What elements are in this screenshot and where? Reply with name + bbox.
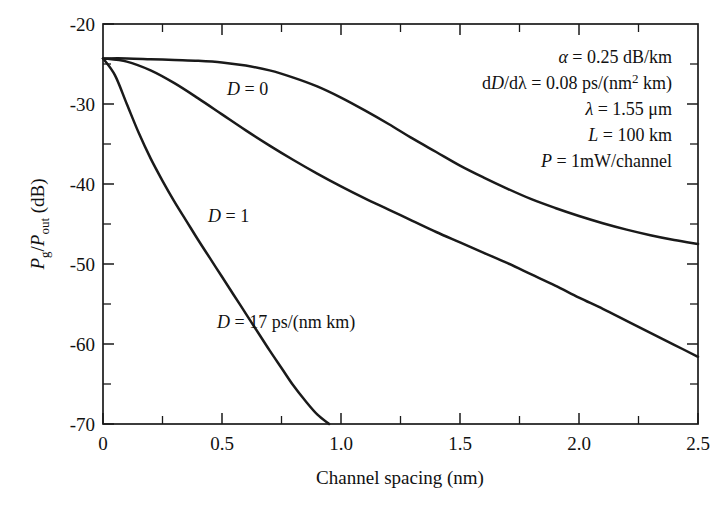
y-tick-label: -20	[70, 14, 95, 35]
annotation-slope-d-prefix: d	[482, 73, 491, 93]
annotation-lambda-symbol: λ	[584, 99, 593, 119]
y-axis-title-p2: P	[27, 234, 48, 247]
annotation-slope-value-post: km)	[639, 73, 673, 94]
annotation-lambda-value: 1.55 μm	[612, 99, 672, 119]
annotation-power-symbol: P	[540, 151, 552, 171]
annotation-alpha: α = 0.25 dB/km	[558, 47, 672, 67]
annotation-slope-value-pre: 0.08 ps/(nm	[546, 73, 632, 94]
curve-label-d1: D = 1	[207, 206, 249, 226]
x-tick-label: 1.5	[448, 433, 472, 454]
x-axis-title: Channel spacing (nm)	[316, 467, 484, 489]
annotation-alpha-value: 0.25 dB/km	[587, 47, 672, 67]
annotation-length-symbol: L	[587, 125, 598, 145]
fwm-efficiency-chart: -20 -30 -40 -50 -60 -70 0 0.5 1.0 1.5 2.…	[0, 0, 726, 505]
y-tick-label: -30	[70, 94, 95, 115]
x-tick-label: 0	[98, 433, 108, 454]
annotation-slope-dlambda: /dλ	[504, 73, 527, 93]
annotation-length: L = 100 km	[587, 125, 672, 145]
x-tick-label: 1.0	[329, 433, 353, 454]
annotation-wavelength: λ = 1.55 μm	[584, 99, 672, 119]
annotation-dispersion-slope: dD/dλ = 0.08 ps/(nm2 km)	[482, 71, 672, 94]
annotation-length-value: 100 km	[617, 125, 672, 145]
y-axis-title-p1: P	[27, 258, 48, 271]
y-tick-label: -60	[70, 334, 95, 355]
y-tick-label: -70	[70, 414, 95, 435]
y-axis-title-sub2: out	[37, 218, 52, 235]
annotation-slope-d-italic: D	[490, 73, 504, 93]
curve-label-d17: D = 17 ps/(nm km)	[216, 312, 355, 333]
x-tick-label: 0.5	[210, 433, 234, 454]
x-tick-label: 2.0	[567, 433, 591, 454]
y-tick-label: -40	[70, 174, 95, 195]
x-tick-label: 2.5	[686, 433, 710, 454]
y-axis-title-unit: (dB)	[27, 178, 49, 218]
figure-container: -20 -30 -40 -50 -60 -70 0 0.5 1.0 1.5 2.…	[0, 0, 726, 505]
annotation-power-value: 1mW/channel	[571, 151, 672, 171]
annotation-power: P = 1mW/channel	[540, 151, 672, 171]
y-tick-label: -50	[70, 254, 95, 275]
curve-label-d0: D = 0	[226, 79, 268, 99]
